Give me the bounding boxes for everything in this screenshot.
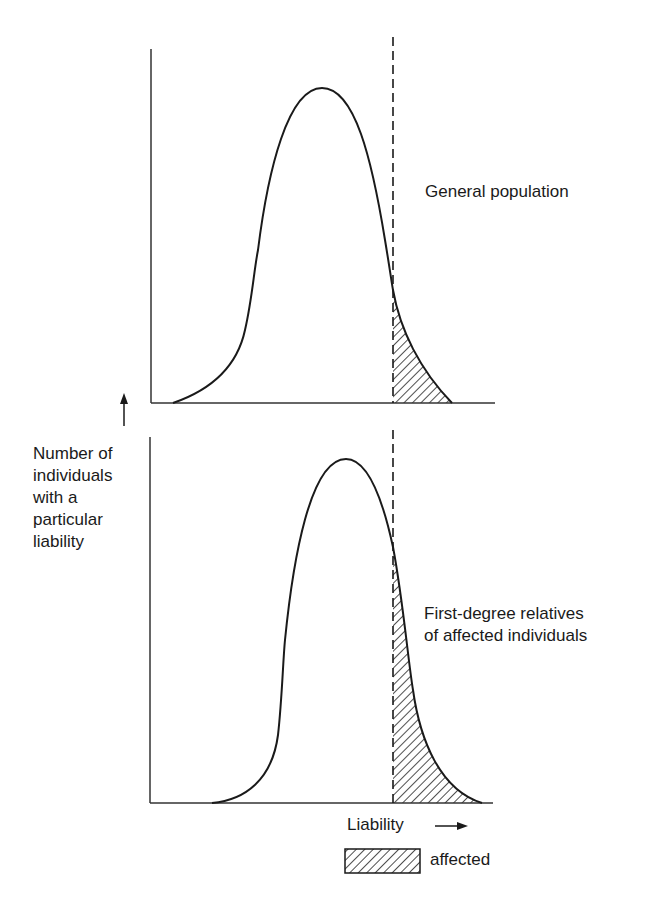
y-axis-label: Number of individuals with a particular … <box>33 443 112 553</box>
y-axis-label-line: Number of <box>33 443 112 465</box>
y-axis-arrow-icon <box>120 393 128 426</box>
x-axis-label: Liability <box>347 814 404 836</box>
y-axis-label-line: individuals <box>33 465 112 487</box>
y-axis-label-line: with a <box>33 487 112 509</box>
y-axis-label-line: liability <box>33 531 112 553</box>
x-axis-arrow-icon <box>435 822 468 830</box>
bottom-panel-label-line2: of affected individuals <box>424 625 587 647</box>
top-affected-area <box>173 88 452 403</box>
legend-hatch-swatch <box>345 849 420 873</box>
legend-affected-label: affected <box>430 849 490 871</box>
top-panel <box>151 37 495 403</box>
bottom-panel-label-line1: First-degree relatives <box>424 603 584 625</box>
top-panel-label: General population <box>425 181 569 203</box>
y-axis-label-line: particular <box>33 509 112 531</box>
